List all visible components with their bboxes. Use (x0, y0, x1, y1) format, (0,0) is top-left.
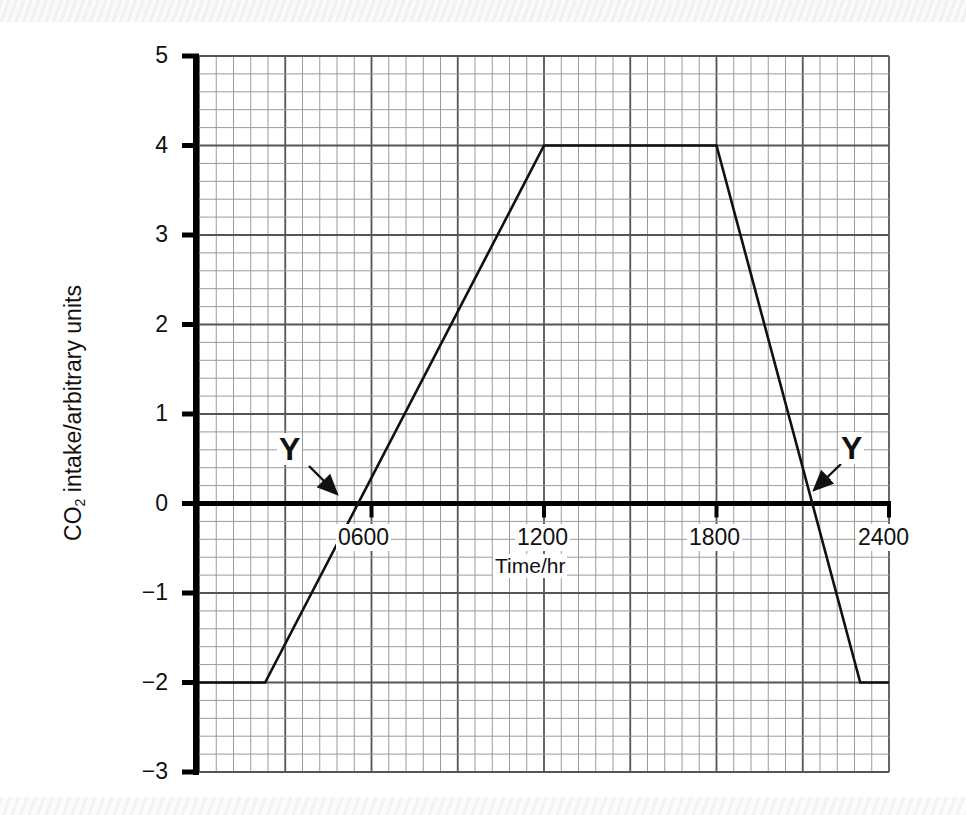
y-tick-label: −1 (128, 579, 168, 606)
x-axis-label: Time/hr (493, 554, 567, 578)
y-axis-label-rest: intake/arbitrary units (60, 285, 86, 498)
y-axis-label: CO2 intake/arbitrary units (60, 285, 88, 541)
annotation-y-left: Y (277, 433, 302, 465)
y-tick-label: −2 (128, 669, 168, 696)
y-tick-label: 5 (128, 42, 168, 69)
y-tick-label: 3 (128, 221, 168, 248)
y-axis-label-subscript: 2 (72, 499, 88, 507)
x-tick-label: 1800 (687, 524, 742, 551)
y-tick-label: 4 (128, 132, 168, 159)
y-tick-label: 2 (128, 311, 168, 338)
y-tick-label: 1 (128, 400, 168, 427)
x-tick-label: 2400 (856, 524, 911, 551)
x-tick-label: 0600 (336, 524, 391, 551)
y-axis-label-main: CO (60, 506, 86, 541)
y-tick-label: −3 (128, 758, 168, 785)
annotation-y-right: Y (839, 432, 864, 464)
y-tick-label: 0 (128, 490, 168, 517)
arrow-icon (309, 466, 337, 494)
x-tick-label: 1200 (515, 524, 570, 551)
